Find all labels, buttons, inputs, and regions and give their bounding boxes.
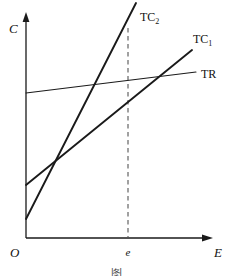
figure-caption: 图 — [0, 268, 234, 276]
y-axis-arrow-icon — [23, 12, 30, 22]
y-axis-label: C — [9, 21, 18, 36]
curve-label-tr-main: TR — [201, 67, 216, 81]
cost-revenue-chart: C E O e TC2 TC1 TR — [0, 0, 234, 276]
curve-tc2 — [26, 3, 136, 219]
curve-label-tc2-main: TC — [140, 10, 155, 24]
curve-label-tc1-sub: 1 — [208, 39, 212, 48]
x-tick-label-e: e — [126, 246, 131, 258]
curve-label-tc2: TC2 — [140, 10, 159, 26]
origin-label: O — [10, 245, 20, 260]
figure-root: C E O e TC2 TC1 TR 图 — [0, 0, 234, 276]
x-axis-label: E — [213, 245, 222, 260]
curve-label-tc2-sub: 2 — [155, 17, 159, 26]
x-axis-arrow-icon — [202, 234, 213, 241]
curve-tc1 — [26, 50, 192, 185]
curve-label-tc1-main: TC — [193, 32, 208, 46]
curve-label-tc1: TC1 — [193, 32, 212, 48]
curve-label-tr: TR — [201, 67, 216, 81]
curve-tr — [26, 72, 196, 93]
